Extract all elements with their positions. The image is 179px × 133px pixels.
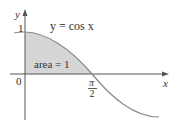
x-axis-label: x <box>162 77 168 89</box>
x-axis-arrow-icon <box>162 72 169 77</box>
y-axis-arrow-icon <box>23 9 28 16</box>
x-tick-numerator: π <box>89 77 95 88</box>
y-tick-label: 1 <box>18 22 24 34</box>
y-axis-label: y <box>14 8 20 20</box>
x-tick-denominator: 2 <box>90 88 95 99</box>
curve-label: y = cos x <box>50 19 94 33</box>
area-label: area = 1 <box>34 58 70 70</box>
origin-label: 0 <box>16 75 22 87</box>
cosine-area-figure: y 1 y = cos x area = 1 0 π 2 x <box>0 0 179 133</box>
